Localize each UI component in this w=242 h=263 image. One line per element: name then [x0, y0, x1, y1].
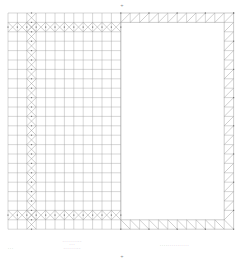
title-line-3: - - - - - - - - - [52, 247, 92, 250]
title-block-center: - - - - - - - - - - - - - - - - - - - - … [52, 240, 92, 250]
structural-grid-drawing: + + [0, 0, 242, 263]
grid-lines [8, 13, 234, 229]
top-center-mark: + [120, 3, 123, 8]
bottom-center-mark: + [120, 254, 123, 259]
title-block-right: - - - - - - - - - - - - - - - [160, 244, 188, 247]
frame-hatching [121, 13, 234, 229]
left-note: - - - [8, 247, 13, 250]
